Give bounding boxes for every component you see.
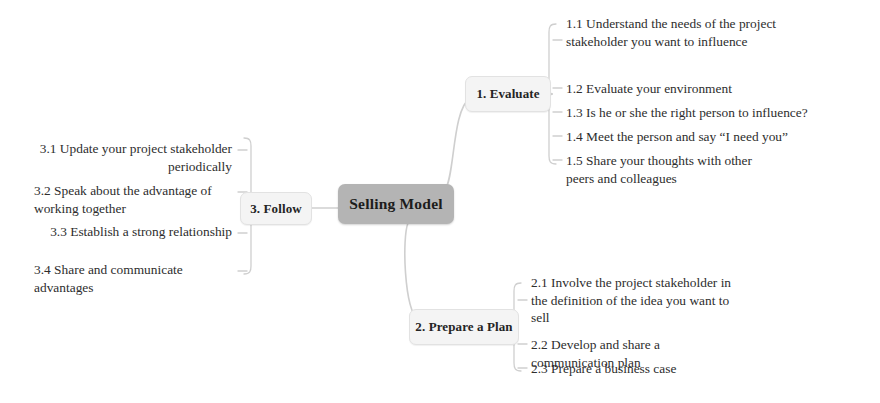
leaf-2-1: 2.1 Involve the project stakeholder in t… [531, 274, 743, 327]
leaf-1-4: 1.4 Meet the person and say “I need you” [566, 128, 866, 146]
leaf-3-2: 3.2 Speak about the advantage of working… [34, 182, 234, 217]
leaf-2-3: 2.3 Prepare a business case [531, 360, 751, 378]
leaf-1-1: 1.1 Understand the needs of the project … [566, 15, 780, 50]
leaf-1-3: 1.3 Is he or she the right person to inf… [566, 104, 866, 122]
branch-node-evaluate[interactable]: 1. Evaluate [465, 76, 551, 112]
leaf-3-1: 3.1 Update your project stakeholder peri… [34, 140, 232, 175]
leaf-1-5: 1.5 Share your thoughts with other peers… [566, 152, 756, 187]
branch-node-follow-label: 3. Follow [250, 201, 301, 217]
branch-node-prepare-a-plan[interactable]: 2. Prepare a Plan [409, 309, 519, 345]
branch-node-evaluate-label: 1. Evaluate [476, 86, 539, 102]
leaf-3-3: 3.3 Establish a strong relationship [34, 223, 232, 241]
branch-node-follow[interactable]: 3. Follow [240, 192, 312, 225]
branch-node-prepare-a-plan-label: 2. Prepare a Plan [415, 319, 512, 335]
leaf-3-4: 3.4 Share and communicate advantages [34, 261, 234, 296]
center-node-selling-model[interactable]: Selling Model [338, 184, 454, 224]
leaf-1-2: 1.2 Evaluate your environment [566, 80, 856, 98]
center-node-label: Selling Model [349, 195, 442, 213]
mindmap-canvas: Selling Model 1. Evaluate 2. Prepare a P… [0, 0, 880, 403]
